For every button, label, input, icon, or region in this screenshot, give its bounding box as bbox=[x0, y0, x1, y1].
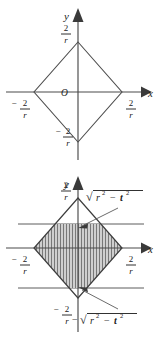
figure-diamond-shaded: y x 2 r − 2 r − 2 r bbox=[0, 170, 162, 355]
svg-text:r: r bbox=[90, 315, 94, 326]
y-axis-label: y bbox=[63, 10, 69, 22]
svg-text:−: − bbox=[11, 98, 16, 108]
svg-text:2: 2 bbox=[64, 23, 69, 33]
upper-bound-label: √ r 2 − t 2 bbox=[86, 189, 143, 204]
svg-text:r: r bbox=[129, 110, 133, 120]
x-axis-label: x bbox=[147, 87, 153, 99]
y-axis-arrowhead bbox=[73, 8, 84, 22]
svg-text:−: − bbox=[11, 254, 16, 264]
figure-stack: y x O 2 r − 2 r − 2 r bbox=[0, 0, 162, 355]
tick-label-x-positive: 2 r bbox=[126, 98, 136, 120]
svg-text:r: r bbox=[64, 35, 68, 45]
figure-diamond-unshaded: y x O 2 r − 2 r − 2 r bbox=[0, 0, 162, 178]
svg-text:r: r bbox=[23, 266, 27, 276]
svg-text:2: 2 bbox=[96, 312, 99, 319]
tick-label-y-positive: 2 r bbox=[61, 23, 71, 45]
svg-text:2: 2 bbox=[129, 254, 134, 264]
tick-label-y-negative: − 2 r bbox=[53, 304, 72, 326]
svg-text:2: 2 bbox=[129, 98, 134, 108]
svg-text:2: 2 bbox=[23, 254, 28, 264]
svg-text:2: 2 bbox=[102, 189, 105, 196]
svg-text:−: − bbox=[104, 315, 110, 326]
tick-label-x-positive: 2 r bbox=[126, 254, 136, 276]
svg-text:2: 2 bbox=[64, 180, 69, 190]
origin-label: O bbox=[61, 88, 68, 98]
tick-label-x-negative: − 2 r bbox=[11, 98, 30, 120]
svg-text:r: r bbox=[96, 192, 100, 203]
svg-text:r: r bbox=[129, 266, 133, 276]
y-axis-arrowhead bbox=[73, 176, 84, 190]
svg-text:√: √ bbox=[86, 190, 93, 204]
tick-label-y-negative: − 2 r bbox=[55, 126, 73, 148]
lower-bound-label: − √ r 2 − t 2 bbox=[72, 312, 137, 327]
tick-label-y-positive: 2 r bbox=[61, 180, 71, 202]
svg-text:−: − bbox=[110, 192, 116, 203]
svg-text:2: 2 bbox=[120, 312, 123, 319]
svg-text:2: 2 bbox=[65, 304, 70, 314]
svg-text:−: − bbox=[72, 314, 78, 325]
x-axis-label: x bbox=[147, 243, 153, 255]
svg-text:2: 2 bbox=[66, 126, 71, 136]
svg-text:r: r bbox=[66, 138, 70, 148]
svg-text:t: t bbox=[120, 192, 124, 203]
svg-text:r: r bbox=[64, 192, 68, 202]
svg-text:−: − bbox=[53, 304, 58, 314]
svg-text:r: r bbox=[23, 110, 27, 120]
svg-text:t: t bbox=[114, 315, 118, 326]
svg-text:√: √ bbox=[80, 313, 87, 327]
svg-text:2: 2 bbox=[126, 189, 129, 196]
svg-text:−: − bbox=[55, 126, 60, 136]
lower-bound-leader bbox=[78, 287, 118, 309]
svg-text:r: r bbox=[65, 316, 69, 326]
tick-label-x-negative: − 2 r bbox=[11, 254, 30, 276]
svg-text:2: 2 bbox=[23, 98, 28, 108]
